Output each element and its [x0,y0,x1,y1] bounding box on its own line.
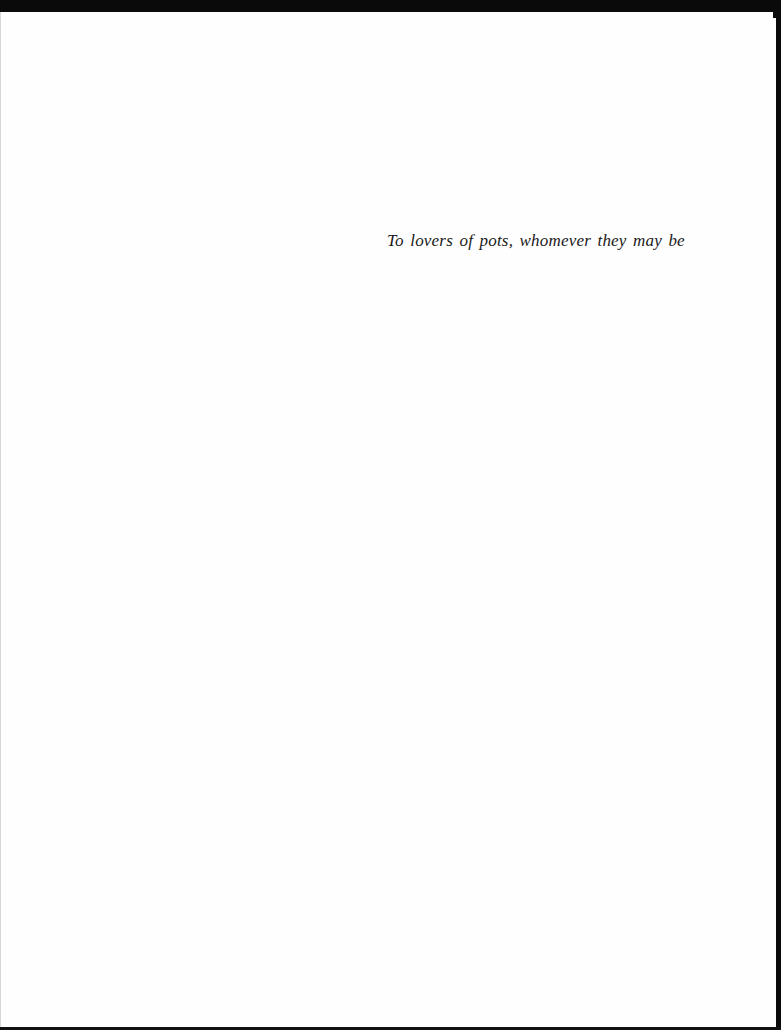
dedication-text: To lovers of pots, whomever they may be [387,229,685,253]
scan-border-right [776,0,781,1030]
book-page: To lovers of pots, whomever they may be [0,0,781,1030]
scan-border-left [0,12,1,1027]
scan-border-top [0,0,781,12]
